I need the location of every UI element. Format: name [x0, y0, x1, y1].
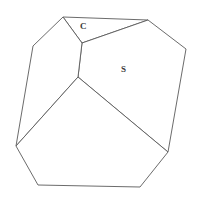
- face-label-s: S: [121, 65, 126, 74]
- crystal-drawing: [0, 0, 203, 200]
- face-label-c: C: [80, 22, 87, 31]
- crystal-figure: C S: [0, 0, 203, 200]
